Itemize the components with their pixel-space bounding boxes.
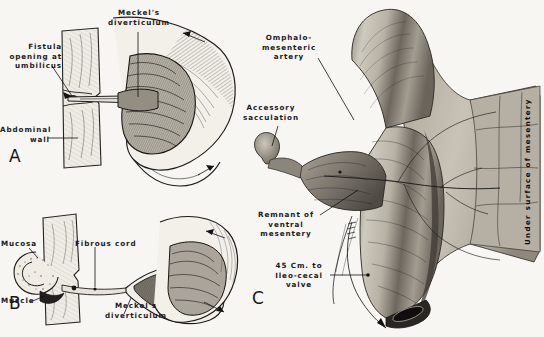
panel-letter-b: B [9, 293, 21, 313]
label-omphalomesenteric-artery: Omphalo- mesenteric artery [258, 33, 320, 62]
label-accessory-sacculation: Accessory sacculation [240, 103, 302, 122]
panel-a-artwork [62, 17, 235, 186]
leader-c-artery [318, 58, 354, 120]
label-mucosa: Mucosa [1, 239, 37, 249]
label-fibrous-cord: Fibrous cord [75, 239, 137, 249]
label-fistula-opening: Fistula opening at umbilicus [0, 42, 62, 71]
label-remnant-ventral-mesentery: Remnant of ventral mesentery [252, 210, 320, 239]
label-meckels-diverticulum-b: Meckel's diverticulum [101, 301, 171, 320]
label-meckels-diverticulum-a: Meckel's diverticulum [104, 8, 174, 27]
label-under-surface-mesentery: Under surface of mesentery [524, 98, 532, 245]
label-ileocecal-distance: 45 Cm. to Ileo-cecal valve [268, 261, 330, 290]
panel-letter-a: A [9, 146, 21, 166]
panel-letter-c: C [252, 288, 264, 308]
figure-plate: Meckel's diverticulum Fistula opening at… [0, 0, 544, 337]
label-abdominal-wall: Abdominal wall [0, 125, 50, 144]
